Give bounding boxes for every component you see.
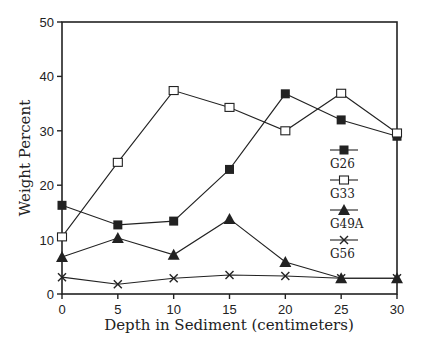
legend-label: G26: [330, 157, 355, 171]
triangle-marker-icon: [56, 251, 68, 262]
x-axis-title: Depth in Sediment (centimeters): [104, 316, 354, 334]
x-tick-label: 15: [222, 302, 236, 317]
y-tick-label: 0: [47, 287, 54, 302]
filled-square-marker-icon: [281, 89, 290, 98]
legend-item-g26: G26: [330, 146, 358, 172]
y-tick-label: 50: [40, 15, 54, 30]
triangle-marker-icon: [168, 249, 180, 260]
x-tick-label: 5: [114, 302, 121, 317]
open-square-marker-icon: [340, 176, 349, 184]
open-square-marker-icon: [393, 129, 402, 137]
legend-label: G49A: [330, 217, 364, 231]
open-square-marker-icon: [169, 87, 178, 95]
open-square-marker-icon: [113, 158, 122, 166]
y-tick-label: 40: [40, 69, 54, 84]
legend-label: G56: [330, 247, 355, 261]
filled-square-marker-icon: [340, 146, 349, 155]
x-tick-label: 0: [58, 302, 65, 317]
open-square-marker-icon: [225, 103, 234, 111]
filled-square-marker-icon: [58, 201, 67, 210]
x-tick-label: 25: [334, 302, 348, 317]
filled-square-marker-icon: [337, 115, 346, 124]
series-g56: [58, 271, 401, 288]
open-square-marker-icon: [337, 89, 346, 97]
open-square-marker-icon: [281, 127, 290, 135]
filled-square-marker-icon: [169, 217, 178, 226]
legend: G26G33G49AG56: [330, 146, 364, 262]
legend-item-g56: G56: [330, 236, 358, 261]
x-tick-label: 20: [278, 302, 292, 317]
x-axis: 051015202530: [58, 294, 404, 317]
y-axis-title: Weight Percent: [16, 100, 34, 216]
triangle-marker-icon: [279, 256, 291, 267]
triangle-marker-icon: [224, 213, 236, 224]
legend-label: G33: [330, 187, 355, 201]
x-tick-label: 30: [390, 302, 404, 317]
legend-item-g49a: G49A: [330, 204, 364, 231]
filled-square-marker-icon: [225, 165, 234, 174]
legend-item-g33: G33: [330, 176, 358, 201]
open-square-marker-icon: [58, 233, 67, 241]
line-chart: 01020304050 051015202530 G26G33G49AG56 D…: [0, 0, 421, 343]
x-tick-label: 10: [166, 302, 180, 317]
y-tick-label: 10: [40, 233, 54, 248]
filled-square-marker-icon: [113, 220, 122, 229]
triangle-marker-icon: [112, 232, 124, 243]
y-tick-label: 20: [40, 178, 54, 193]
y-tick-label: 30: [40, 124, 54, 139]
